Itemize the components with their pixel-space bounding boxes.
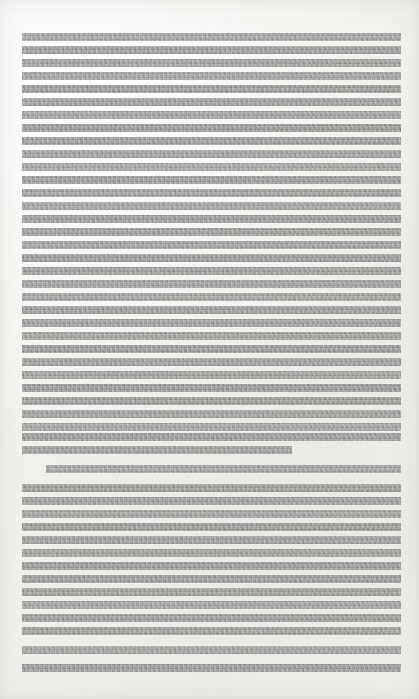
redacted-text-line <box>22 85 401 93</box>
redacted-text-line <box>22 98 401 106</box>
redacted-text-line <box>22 536 401 544</box>
redacted-text-line <box>22 46 401 54</box>
redacted-text-line <box>22 280 401 288</box>
redacted-text-line <box>22 433 401 441</box>
redacted-text-line <box>22 59 401 67</box>
redacted-text-line <box>22 423 401 431</box>
redaction-layer <box>0 0 419 699</box>
redacted-text-line <box>22 510 401 518</box>
redacted-text-line <box>22 124 401 132</box>
redacted-text-line <box>22 549 401 557</box>
redacted-text-line <box>22 575 401 583</box>
redacted-text-line <box>22 176 401 184</box>
redacted-text-line <box>22 228 401 236</box>
redacted-text-line <box>22 254 401 262</box>
redacted-text-line <box>22 72 401 80</box>
redacted-text-line <box>22 163 401 171</box>
redacted-text-line <box>22 137 401 145</box>
redacted-text-line <box>22 306 401 314</box>
redacted-text-line <box>22 627 401 635</box>
redacted-text-line <box>22 484 401 492</box>
redacted-text-line <box>22 293 401 301</box>
document-page <box>0 0 419 699</box>
redacted-text-line <box>22 397 401 405</box>
redacted-text-line <box>22 319 401 327</box>
redacted-text-line <box>22 562 401 570</box>
redacted-text-line <box>22 446 292 454</box>
redacted-text-line <box>22 358 401 366</box>
redacted-text-line <box>22 588 401 596</box>
redacted-text-line <box>22 189 401 197</box>
redacted-text-line <box>22 33 401 41</box>
redacted-text-line <box>22 267 401 275</box>
redacted-text-line <box>22 646 401 654</box>
redacted-text-line <box>22 111 401 119</box>
redacted-text-line <box>22 664 401 672</box>
redacted-text-line <box>22 241 401 249</box>
redacted-text-line <box>22 601 401 609</box>
redacted-text-line <box>22 150 401 158</box>
redacted-text-line <box>22 345 401 353</box>
redacted-text-line <box>46 465 401 473</box>
redacted-text-line <box>22 614 401 622</box>
redacted-text-line <box>22 497 401 505</box>
redacted-text-line <box>22 384 401 392</box>
redacted-text-line <box>22 523 401 531</box>
redacted-text-line <box>22 371 401 379</box>
redacted-text-line <box>22 202 401 210</box>
redacted-text-line <box>22 215 401 223</box>
redacted-text-line <box>22 410 401 418</box>
redacted-text-line <box>22 332 401 340</box>
